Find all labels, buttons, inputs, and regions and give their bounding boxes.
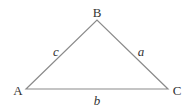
side-label-c: c	[53, 45, 59, 58]
vertex-label-c: C	[173, 84, 182, 97]
side-label-a: a	[138, 45, 145, 58]
triangle-outline	[26, 20, 168, 89]
side-label-b: b	[94, 94, 101, 107]
vertex-label-b: B	[93, 6, 102, 19]
vertex-label-a: A	[13, 84, 22, 97]
triangle-diagram: A B C c a b	[0, 0, 194, 108]
